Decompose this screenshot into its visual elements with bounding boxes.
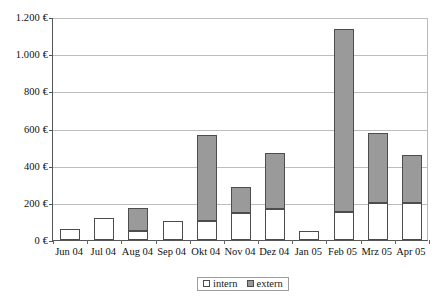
bar-segment-extern[interactable] (197, 135, 217, 220)
legend-swatch-icon (203, 280, 210, 287)
x-axis-tick-label: Dez 04 (257, 246, 291, 258)
bar-group[interactable] (94, 218, 114, 240)
bar-group[interactable] (368, 133, 388, 240)
y-axis-tick-label: 400 € (0, 162, 48, 172)
bar-segment-extern[interactable] (334, 29, 354, 212)
bar-segment-intern[interactable] (334, 212, 354, 240)
bar-chart: 0 €200 €400 €600 €800 €1.000 €1.200 € Ju… (0, 0, 444, 304)
x-axis-tick (190, 240, 191, 244)
bar-group[interactable] (163, 221, 183, 240)
x-axis-tick-label: Jun 04 (52, 246, 86, 258)
x-axis-tick-label: Apr 05 (394, 246, 428, 258)
bar-segment-extern[interactable] (128, 208, 148, 231)
bar-segment-intern[interactable] (265, 209, 285, 240)
y-axis-tick-label: 800 € (0, 87, 48, 97)
bar-group[interactable] (128, 207, 148, 240)
legend-label: intern (213, 278, 238, 289)
x-axis-tick-label: Mrz 05 (360, 246, 394, 258)
x-axis-tick (395, 240, 396, 244)
x-axis-tick-label: Jan 05 (291, 246, 325, 258)
bar-group[interactable] (402, 155, 422, 240)
x-axis-tick-label: Nov 04 (223, 246, 257, 258)
legend-item-intern[interactable]: intern (203, 278, 238, 289)
y-axis-tick-label: 600 € (0, 125, 48, 135)
x-axis-tick (121, 240, 122, 244)
x-axis-tick (429, 240, 430, 244)
x-axis-tick (326, 240, 327, 244)
x-axis-tick (87, 240, 88, 244)
x-axis-tick-label: Okt 04 (189, 246, 223, 258)
y-axis-tick-label: 200 € (0, 199, 48, 209)
plot-area (52, 18, 428, 241)
bar-segment-intern[interactable] (299, 231, 319, 240)
bar-group[interactable] (231, 187, 251, 240)
bar-segment-intern[interactable] (368, 203, 388, 240)
bar-segment-intern[interactable] (60, 229, 80, 240)
x-axis-tick-label: Feb 05 (325, 246, 359, 258)
x-axis-tick (258, 240, 259, 244)
x-axis-tick (156, 240, 157, 244)
x-axis-tick (361, 240, 362, 244)
x-axis-tick (224, 240, 225, 244)
bar-group[interactable] (197, 135, 217, 240)
y-axis-tick-labels: 0 €200 €400 €600 €800 €1.000 €1.200 € (0, 0, 48, 304)
bar-segment-extern[interactable] (265, 153, 285, 210)
bar-segment-intern[interactable] (163, 221, 183, 240)
bar-segment-extern[interactable] (402, 155, 422, 203)
bar-segment-intern[interactable] (94, 218, 114, 240)
x-axis-tick (53, 240, 54, 244)
x-axis-tick-label: Aug 04 (120, 246, 154, 258)
y-axis-tick-label: 1.000 € (0, 50, 48, 60)
bar-segment-intern[interactable] (231, 213, 251, 240)
y-axis-tick-label: 1.200 € (0, 13, 48, 23)
bar-group[interactable] (299, 231, 319, 240)
bar-segment-intern[interactable] (402, 203, 422, 240)
bar-series-container (53, 18, 428, 240)
chart-legend: internextern (197, 277, 289, 291)
legend-item-extern[interactable]: extern (247, 278, 283, 289)
y-axis-tick-label: 0 € (0, 236, 48, 246)
bar-segment-intern[interactable] (128, 231, 148, 240)
legend-label: extern (257, 278, 283, 289)
bar-group[interactable] (60, 229, 80, 240)
bar-segment-extern[interactable] (368, 133, 388, 203)
bar-group[interactable] (265, 153, 285, 240)
legend-swatch-icon (247, 280, 254, 287)
x-axis-tick-label: Sep 04 (155, 246, 189, 258)
bar-segment-intern[interactable] (197, 221, 217, 241)
bar-group[interactable] (334, 29, 354, 240)
x-axis-tick-label: Jul 04 (86, 246, 120, 258)
bar-segment-extern[interactable] (231, 187, 251, 213)
x-axis-tick-labels: Jun 04Jul 04Aug 04Sep 04Okt 04Nov 04Dez … (52, 246, 428, 262)
x-axis-tick (292, 240, 293, 244)
